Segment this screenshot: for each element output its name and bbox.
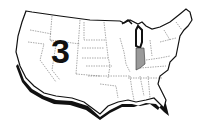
- region-number-label: 3: [51, 34, 70, 68]
- michigan-outline: [136, 26, 142, 48]
- us-map: [0, 0, 209, 135]
